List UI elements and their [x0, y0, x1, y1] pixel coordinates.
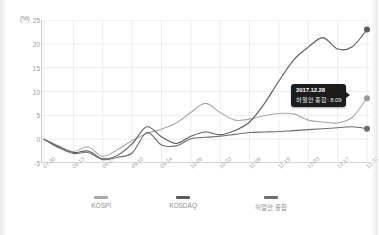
y-axis-tick: 15	[18, 64, 40, 71]
legend-swatch	[264, 196, 278, 199]
right-edge-shade	[371, 0, 378, 235]
y-axis-tick: 5	[18, 112, 40, 119]
y-axis-tick: 10	[18, 88, 40, 95]
y-axis-tick: 20	[18, 40, 40, 47]
legend-label: 허얼안 종합	[255, 202, 287, 212]
y-axis-tick: -5	[18, 160, 40, 167]
chart-legend: KOSPIKOSDAQ허얼안 종합	[0, 196, 378, 222]
y-axis-tick: 0	[18, 136, 40, 143]
legend-swatch	[94, 196, 108, 199]
legend-label: KOSDAQ	[169, 202, 197, 209]
y-axis-tick: 25	[18, 17, 40, 24]
legend-item[interactable]: KOSDAQ	[169, 196, 197, 222]
series-line	[44, 98, 367, 156]
endpoint-dot	[364, 126, 370, 132]
legend-item[interactable]: KOSPI	[91, 196, 111, 222]
legend-label: KOSPI	[91, 202, 111, 209]
legend-item[interactable]: 허얼안 종합	[255, 196, 287, 222]
endpoint-dot	[364, 95, 370, 101]
left-edge-shade	[0, 0, 7, 235]
legend-swatch	[176, 196, 190, 199]
endpoint-dot	[364, 27, 370, 33]
tooltip-value: 허얼안 종합: 8.09	[296, 95, 341, 104]
x-axis-tick-labels: 07.3008.1308.2709.1009.2410.0810.2211.05…	[41, 163, 370, 189]
tooltip-date: 2017.12.28	[296, 87, 341, 93]
data-tooltip: 2017.12.28 허얼안 종합: 8.09	[291, 84, 346, 107]
